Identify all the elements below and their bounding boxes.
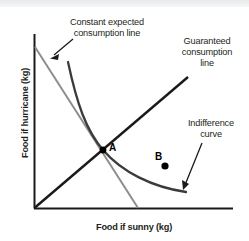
budget-line-annotation-leader [54, 39, 73, 55]
indifference-label-line1: Indifference [188, 118, 234, 128]
x-axis-label: Food if sunny (kg) [34, 222, 234, 232]
guaranteed-label-line3: line [200, 58, 214, 68]
constant-expected-label-line2: consumption line [74, 28, 141, 38]
indifference-arrowhead-icon [182, 180, 189, 190]
guaranteed-label-line2: consumption [182, 47, 232, 57]
y-axis-label: Food if hurricane (kg) [20, 40, 30, 186]
point-b-label: B [155, 151, 162, 162]
indifference-label-line2: curve [200, 129, 222, 139]
constant-expected-consumption-label: Constant expected consumption line [56, 17, 158, 39]
guaranteed-consumption-label: Guaranteed consumption line [168, 36, 246, 69]
point-b-marker [161, 162, 168, 169]
point-a-marker [100, 147, 107, 154]
indifference-curve-label: Indifference curve [176, 118, 246, 140]
constant-expected-label-line1: Constant expected [70, 17, 144, 27]
indifference-annotation-leader [185, 143, 202, 185]
guaranteed-label-line1: Guaranteed [183, 36, 230, 46]
point-a-label: A [109, 142, 116, 153]
constant-expected-consumption-line [35, 47, 138, 208]
economics-indifference-curve-figure: Constant expected consumption line Guara… [0, 0, 249, 241]
